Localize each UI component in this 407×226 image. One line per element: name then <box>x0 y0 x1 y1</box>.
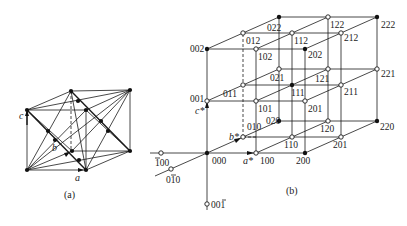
label-222: 222 <box>381 20 396 30</box>
figure-b-reciprocal-lattice: 000 100 200 010 110 201 020 120 220 001 … <box>150 15 396 210</box>
label-m001: 001 <box>211 200 226 210</box>
point-001 <box>205 99 209 103</box>
axis-label-b: b <box>52 142 57 153</box>
caption-b: (b) <box>286 185 298 197</box>
label-201-lower: 201 <box>333 140 348 150</box>
label-000: 000 <box>212 156 227 166</box>
label-121: 121 <box>315 74 330 84</box>
label-022: 022 <box>267 23 282 33</box>
label-111: 111 <box>291 88 305 98</box>
label-m010: 010 <box>166 175 181 185</box>
point-021 <box>277 67 281 71</box>
caption-a: (a) <box>64 189 75 201</box>
point-201 <box>303 99 307 103</box>
point-211 <box>339 83 343 87</box>
point-012 <box>241 31 245 35</box>
point-011 <box>241 83 245 87</box>
label-201: 201 <box>308 104 323 114</box>
figure-canvas: c b a (a) <box>0 0 407 226</box>
label-020: 020 <box>266 116 281 126</box>
point-022 <box>277 15 281 19</box>
label-200: 200 <box>296 156 311 166</box>
point-120 <box>326 119 330 123</box>
point-121 <box>326 67 330 71</box>
axis-label-a: a <box>75 172 80 183</box>
point-111 <box>290 83 294 87</box>
label-011: 011 <box>223 89 237 99</box>
point-221 <box>375 67 379 71</box>
label-002: 002 <box>190 44 205 54</box>
label-120: 120 <box>320 124 335 134</box>
label-100: 100 <box>260 156 275 166</box>
axis-label-c: c <box>19 110 24 121</box>
label-010: 010 <box>247 122 262 132</box>
axis-label-b-star: b* <box>229 131 239 142</box>
label-122: 122 <box>330 20 345 30</box>
point-210 <box>339 135 343 139</box>
point-222 <box>375 15 379 19</box>
point-m100 <box>159 151 163 155</box>
label-110: 110 <box>284 140 298 150</box>
point-122 <box>326 15 330 19</box>
point-101 <box>254 99 258 103</box>
point-100 <box>254 151 258 155</box>
point-110 <box>290 135 294 139</box>
label-112: 112 <box>294 36 308 46</box>
label-m100: 100 <box>155 158 170 168</box>
label-221: 221 <box>381 69 396 79</box>
point-m010 <box>169 167 173 171</box>
point-220 <box>375 119 379 123</box>
label-021: 021 <box>270 73 285 83</box>
axis-label-c-star: c* <box>195 105 204 116</box>
label-012: 012 <box>246 36 261 46</box>
label-101: 101 <box>258 104 273 114</box>
label-102: 102 <box>258 52 273 62</box>
point-202 <box>303 47 307 51</box>
point-212 <box>339 31 343 35</box>
label-001: 001 <box>190 94 205 104</box>
figure-a-real-lattice: c b a (a) <box>19 88 132 201</box>
point-labels: 000 100 200 010 110 201 020 120 220 001 … <box>155 20 396 210</box>
point-m001 <box>205 202 209 206</box>
label-211: 211 <box>344 87 358 97</box>
point-010 <box>241 135 245 139</box>
label-212: 212 <box>344 33 359 43</box>
label-202: 202 <box>308 50 323 60</box>
point-002 <box>205 47 209 51</box>
point-102 <box>254 47 258 51</box>
label-220: 220 <box>380 122 395 132</box>
point-200 <box>303 151 307 155</box>
point-112 <box>290 31 294 35</box>
axis-label-a-star: a* <box>243 155 253 166</box>
point-000 <box>205 151 209 155</box>
